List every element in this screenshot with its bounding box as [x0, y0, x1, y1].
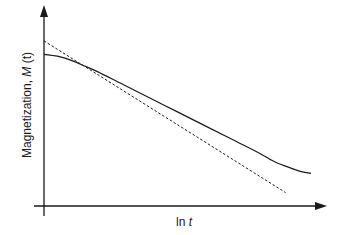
- series-linear-fit-line: [44, 41, 286, 193]
- x-axis-arrow: [315, 202, 327, 210]
- series-magnetization-line: [44, 54, 311, 173]
- axes: [34, 5, 327, 216]
- y-axis-arrow: [40, 5, 48, 17]
- y-axis-label: Magnetization, M (t): [20, 52, 34, 158]
- x-axis-label: ln t: [176, 215, 193, 229]
- chart: ln t Magnetization, M (t): [0, 0, 340, 235]
- series-layer: [44, 41, 311, 193]
